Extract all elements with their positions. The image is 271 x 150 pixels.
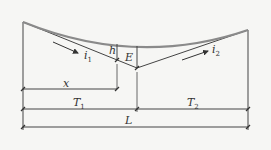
- diagram-canvas: [0, 0, 271, 150]
- vertical-curve-diagram: i1 i2 h E x T1 T2 L: [0, 0, 271, 150]
- label-T1: T1: [73, 97, 85, 111]
- arrow-i1: [53, 42, 78, 53]
- label-i1: i1: [84, 50, 92, 64]
- label-L: L: [125, 115, 132, 126]
- label-E: E: [125, 52, 133, 63]
- label-h: h: [109, 45, 116, 56]
- label-i2: i2: [212, 44, 220, 58]
- label-T2: T2: [187, 97, 199, 111]
- arrow-i2: [182, 51, 208, 60]
- label-x: x: [63, 78, 69, 89]
- dimension-ticks: [21, 58, 250, 129]
